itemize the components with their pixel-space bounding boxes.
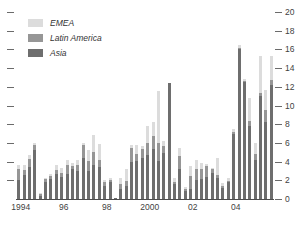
bar-segment (49, 179, 52, 199)
bar (146, 126, 149, 199)
bar-segment (23, 165, 26, 170)
y-tick-right (275, 199, 282, 200)
bar (157, 91, 160, 199)
bar-segment (98, 144, 101, 160)
bar-segment (82, 145, 85, 158)
y-tick-right (275, 162, 282, 163)
bar-segment (259, 93, 262, 96)
y-tick-label-right: 18 (285, 27, 294, 36)
bar (33, 143, 36, 199)
bar (130, 145, 133, 199)
bar (162, 141, 165, 199)
bar (82, 143, 85, 199)
bar-segment (238, 48, 241, 50)
bar-segment (200, 163, 203, 169)
bar-segment (141, 158, 144, 199)
bar-segment (135, 161, 138, 199)
bar-segment (168, 83, 171, 199)
y-tick-left (7, 106, 14, 107)
bar (221, 183, 224, 199)
y-tick-left (7, 68, 14, 69)
bar (152, 122, 155, 199)
y-tick-label-right: 14 (285, 64, 294, 73)
bar (200, 163, 203, 199)
bar-segment (243, 82, 246, 199)
legend-item-latin-america: Latin America (28, 32, 102, 44)
bar-segment (216, 175, 219, 179)
bar (49, 174, 52, 199)
y-tick-left (7, 49, 14, 50)
bar-segment (17, 165, 20, 169)
bar-segment (211, 173, 214, 199)
bar-segment (146, 143, 149, 155)
bar-segment (39, 193, 42, 194)
bar-segment (66, 160, 69, 166)
bar (227, 178, 230, 199)
bar-segment (221, 186, 224, 188)
bar-segment (227, 182, 230, 199)
bar-segment (109, 180, 112, 182)
bar-segment (125, 169, 128, 181)
bar-segment (232, 129, 235, 132)
bar-segment (259, 96, 262, 199)
bar-segment (33, 145, 36, 151)
bar-segment (92, 135, 95, 153)
bar-segment (152, 122, 155, 136)
bar (243, 79, 246, 199)
bar-segment (157, 143, 160, 161)
bar-segment (135, 145, 138, 154)
y-tick-label-right: 8 (285, 120, 290, 129)
bar-segment (221, 188, 224, 199)
legend: EMEA Latin America Asia (28, 17, 102, 62)
y-tick-right (275, 31, 282, 32)
bar-segment (55, 165, 58, 170)
bar (55, 165, 58, 199)
bar-segment (173, 178, 176, 182)
y-tick-label-right: 0 (285, 195, 290, 204)
bar-segment (28, 167, 31, 199)
bar-segment (248, 126, 251, 199)
bar (17, 165, 20, 199)
bar (28, 155, 31, 199)
bar-segment (71, 169, 74, 199)
bar-segment (211, 169, 214, 173)
bar-segment (211, 168, 214, 169)
bar-segment (189, 176, 192, 189)
bar-segment (243, 79, 246, 81)
bar-segment (98, 160, 101, 167)
bar-segment (184, 187, 187, 189)
y-tick-right (275, 87, 282, 88)
y-tick-left (7, 162, 14, 163)
bar-segment (216, 158, 219, 175)
legend-item-asia: Asia (28, 47, 102, 59)
bar-segment (238, 49, 241, 199)
bar-segment (28, 155, 31, 159)
bar (98, 144, 101, 199)
bar-segment (17, 169, 20, 180)
bar (184, 187, 187, 199)
bar (60, 168, 63, 199)
bar-segment (109, 182, 112, 199)
x-axis-line (16, 199, 274, 200)
bar-segment (264, 90, 267, 111)
bar-segment (200, 179, 203, 199)
bar (76, 160, 79, 199)
bar-segment (76, 165, 79, 171)
bar-segment (178, 148, 181, 156)
bar-segment (60, 173, 63, 177)
bar-segment (87, 161, 90, 171)
bar-segment (55, 174, 58, 199)
bar (141, 146, 144, 199)
y-tick-right (275, 143, 282, 144)
bar-segment (264, 110, 267, 122)
bar-segment (49, 176, 52, 180)
legend-swatch-latin-america (28, 34, 43, 42)
legend-item-emea: EMEA (28, 17, 102, 29)
bar-segment (125, 186, 128, 199)
bar (92, 135, 95, 200)
bar-segment (76, 171, 79, 199)
legend-label-asia: Asia (50, 49, 67, 58)
bar-segment (141, 149, 144, 158)
bar-segment (221, 183, 224, 186)
bar-segment (119, 189, 122, 199)
